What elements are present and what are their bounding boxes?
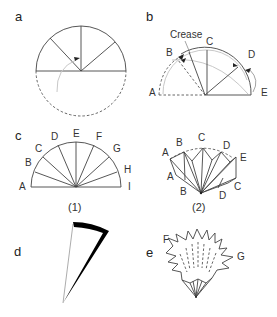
- faint-arc: [172, 60, 248, 94]
- point-label-c: C: [35, 143, 42, 154]
- point-label-d: D: [248, 49, 255, 60]
- panel-e: e F G: [146, 229, 245, 298]
- panel-c-label: c: [15, 128, 22, 143]
- crease-label: Crease: [170, 29, 203, 40]
- fan-inner-creases: [180, 242, 216, 272]
- point-label-d: D: [51, 131, 58, 142]
- panel-b-label: b: [146, 9, 153, 24]
- folding-diagram: a b Crease C B D A E: [0, 0, 277, 317]
- panel-d-label: d: [14, 244, 21, 259]
- point-label-a: A: [19, 181, 26, 192]
- semicircle-bottom-dashed: [36, 71, 126, 116]
- bottom-label-b: B: [180, 186, 187, 197]
- arrowhead-icon: [74, 57, 80, 61]
- point-label-g: G: [237, 251, 245, 262]
- top-label-e: E: [240, 152, 247, 163]
- crease-line: [189, 52, 205, 95]
- bottom-label-c: C: [234, 181, 241, 192]
- panel-e-label: e: [146, 245, 153, 260]
- faint-arc: [163, 50, 247, 94]
- panel-c1: c A B C D E F G H I (1): [15, 128, 131, 213]
- top-label-a: A: [162, 147, 169, 158]
- panel-a: a: [15, 9, 126, 116]
- point-label-h: H: [124, 164, 131, 175]
- apex-dot: [195, 296, 197, 298]
- top-label-c: C: [198, 132, 205, 143]
- cone-edge-thin: [63, 224, 73, 303]
- point-label-e: E: [261, 87, 268, 98]
- radius-line: [81, 42, 115, 71]
- fan-outline-left: [166, 246, 182, 280]
- radial-lines: [35, 142, 117, 187]
- panel-a-label: a: [15, 9, 23, 24]
- point-label-i: I: [128, 181, 131, 192]
- caption-1: (1): [68, 201, 81, 213]
- arc-outline: [181, 47, 251, 95]
- fan-outline: [168, 229, 233, 278]
- top-label-b: B: [176, 137, 183, 148]
- fold-arc: [57, 60, 76, 92]
- panel-b: b Crease C B D A E: [146, 9, 268, 98]
- point-label-b: B: [25, 157, 32, 168]
- panel-c2: B C D A E A B D C (2): [162, 132, 247, 213]
- point-label-c: C: [206, 36, 213, 47]
- cone-edge-thick: [63, 222, 109, 303]
- bottom-label-a: A: [167, 171, 174, 182]
- bottom-label-d: D: [219, 190, 226, 201]
- dashed-radius: [178, 60, 205, 95]
- panel-d: d: [14, 222, 109, 303]
- point-label-a: A: [149, 87, 156, 98]
- apex-dot: [200, 192, 202, 194]
- point-label-b: B: [166, 47, 173, 58]
- point-label-f: F: [163, 234, 169, 245]
- caption-2: (2): [192, 201, 205, 213]
- point-label-g: G: [113, 143, 121, 154]
- point-label-f: F: [96, 131, 102, 142]
- top-label-d: D: [223, 140, 230, 151]
- point-label-e: E: [73, 128, 80, 139]
